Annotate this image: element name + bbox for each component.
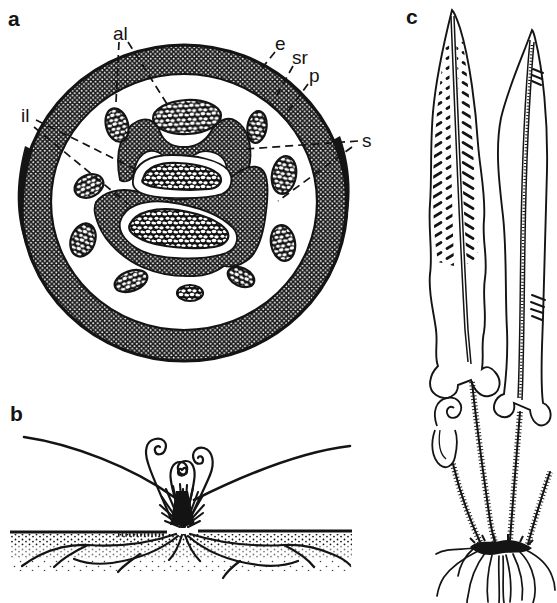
rhizome	[470, 534, 533, 555]
cross-section-drawing	[18, 45, 350, 361]
label-sr: sr	[292, 47, 309, 68]
young-crozier	[432, 398, 461, 467]
right-frond	[494, 30, 551, 425]
fern-morphology-figure: a	[0, 0, 557, 603]
left-frond-arc	[24, 437, 174, 497]
label-al: al	[113, 23, 128, 44]
panel-b-habit-sketch: b	[0, 393, 380, 603]
left-frond	[430, 10, 500, 398]
label-il: il	[21, 105, 29, 126]
right-frond-arc	[194, 446, 350, 500]
panel-b-letter: b	[10, 402, 23, 425]
label-e: e	[275, 33, 286, 54]
panel-c-letter: c	[406, 5, 418, 28]
label-s: s	[362, 130, 372, 151]
label-p: p	[309, 65, 320, 86]
roots	[436, 548, 555, 603]
panel-a-cross-section: a	[0, 0, 380, 400]
panel-c-fronds: c	[380, 0, 557, 603]
panel-a-letter: a	[8, 7, 20, 30]
